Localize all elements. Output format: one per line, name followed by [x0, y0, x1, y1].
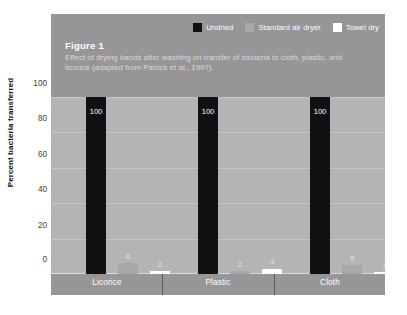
y-axis-title: Percent bacteria transferred [6, 53, 15, 213]
bar-value-licorice-undried: 100 [81, 107, 111, 116]
bar-group-cloth: 100 5 1 [305, 97, 407, 274]
bar-value-licorice-standard-air-dryer: 6 [113, 252, 143, 261]
bar-group-licorice: 100 6 2 [81, 97, 191, 274]
legend-entry-standard-air-dryer: Standard air dryer [245, 23, 321, 32]
y-tick-40: 40 [23, 185, 47, 194]
category-label-licorice: Licorice [52, 278, 162, 287]
legend-swatch-standard-air-dryer [245, 23, 254, 32]
legend-entry-undried: Undried [193, 23, 233, 32]
y-tick-80: 80 [23, 114, 47, 123]
bar-plastic-undried: 100 [198, 97, 218, 274]
bar-value-cloth-undried: 100 [305, 107, 335, 116]
plot-area: 100 6 2 100 2 3 100 [51, 97, 385, 274]
figure-title: Figure 1 [65, 40, 365, 52]
y-tick-60: 60 [23, 150, 47, 159]
bar-value-licorice-towel-dry: 2 [145, 260, 175, 269]
figure-panel: Undried Standard air dryer Towel dry Fig… [51, 14, 385, 295]
bar-licorice-standard-air-dryer: 6 [118, 263, 138, 274]
bar-value-plastic-standard-air-dryer: 2 [225, 260, 255, 269]
y-tick-20: 20 [23, 221, 47, 230]
legend-entry-towel-dry: Towel dry [333, 23, 379, 32]
legend-label-standard-air-dryer: Standard air dryer [258, 23, 321, 32]
bar-licorice-undried: 100 [86, 97, 106, 274]
category-axis-band: Licorice Plastic Cloth [51, 274, 385, 295]
legend-label-towel-dry: Towel dry [346, 23, 379, 32]
category-label-cloth: Cloth [275, 278, 385, 287]
bar-cloth-standard-air-dryer: 5 [342, 265, 362, 274]
bar-group-plastic: 100 2 3 [193, 97, 303, 274]
bar-value-plastic-undried: 100 [193, 107, 223, 116]
chart-legend: Undried Standard air dryer Towel dry [51, 20, 385, 34]
category-label-plastic: Plastic [163, 278, 273, 287]
legend-swatch-undried [193, 23, 202, 32]
y-axis-ticks: 100 80 60 40 20 0 [19, 83, 47, 260]
legend-label-undried: Undried [206, 23, 233, 32]
figure-caption: Effect of drying hands after washing on … [65, 53, 365, 74]
bar-value-cloth-towel-dry: 1 [369, 261, 399, 270]
y-tick-0: 0 [23, 255, 47, 264]
legend-swatch-towel-dry [333, 23, 342, 32]
bar-value-plastic-towel-dry: 3 [257, 257, 287, 266]
bar-cloth-undried: 100 [310, 97, 330, 274]
bar-value-cloth-standard-air-dryer: 5 [337, 254, 367, 263]
figure-caption-block: Figure 1 Effect of drying hands after wa… [65, 40, 365, 74]
y-tick-100: 100 [23, 79, 47, 88]
